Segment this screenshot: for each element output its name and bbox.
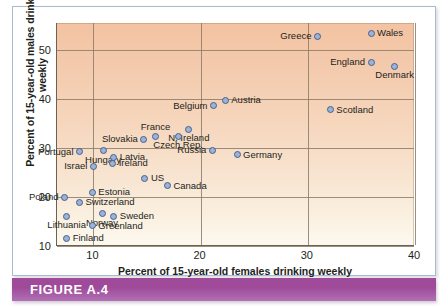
- gridline-vertical: [308, 23, 309, 245]
- plot-right-border: [413, 23, 414, 245]
- data-point: [89, 222, 96, 229]
- figure-caption-bar: FIGURE A.4: [12, 278, 436, 301]
- data-point: [210, 102, 217, 109]
- gridline-horizontal: [57, 148, 414, 149]
- data-point-label: Russia: [177, 145, 206, 155]
- data-point: [140, 136, 147, 143]
- data-point: [164, 182, 171, 189]
- data-point-label: Canada: [173, 181, 206, 191]
- data-point: [76, 199, 83, 206]
- data-point: [90, 163, 97, 170]
- data-point-label: US: [151, 173, 164, 183]
- figure-root: Percent of 15-year-old males drinking we…: [0, 0, 440, 307]
- data-point-label: Switzerland: [86, 197, 135, 207]
- data-point: [89, 189, 96, 196]
- data-point-label: Ireland: [119, 158, 148, 168]
- data-point-label: Denmark: [375, 70, 414, 80]
- y-tick-label: 10: [25, 240, 51, 252]
- gridline-vertical: [415, 23, 416, 245]
- x-tick-label: 30: [292, 249, 322, 261]
- data-point-label: England: [330, 57, 365, 67]
- data-point-label: Slovakia: [102, 134, 138, 144]
- data-point: [209, 147, 216, 154]
- figure-caption-label: FIGURE A.4: [30, 282, 108, 297]
- y-tick-label: 50: [25, 44, 51, 56]
- data-point-label: Greenland: [98, 221, 142, 231]
- gridline-horizontal: [57, 50, 414, 51]
- data-point-label: Israel: [64, 161, 87, 171]
- data-point-label: Lithuania: [47, 220, 86, 230]
- data-point: [222, 97, 229, 104]
- data-point: [152, 133, 159, 140]
- data-point-label: Poland: [29, 192, 59, 202]
- y-tick-label: 40: [25, 93, 51, 105]
- data-point-label: Portugal: [38, 147, 73, 157]
- gridline-vertical: [93, 23, 94, 245]
- data-point-label: Greece: [280, 31, 311, 41]
- data-point-label: Scotland: [336, 105, 373, 115]
- plot-top-border: [57, 23, 414, 24]
- data-point-label: Belgium: [173, 101, 207, 111]
- x-tick-label: 40: [399, 249, 429, 261]
- x-tick-label: 10: [77, 249, 107, 261]
- data-point: [110, 213, 117, 220]
- data-point: [109, 160, 116, 167]
- data-point-label: Austria: [231, 95, 261, 105]
- data-point: [234, 151, 241, 158]
- data-point-label: Germany: [243, 150, 282, 160]
- data-point-label: France: [141, 122, 171, 132]
- data-point: [61, 194, 68, 201]
- data-point: [141, 175, 148, 182]
- x-tick-label: 20: [185, 249, 215, 261]
- data-point: [63, 235, 70, 242]
- figure-panel: Percent of 15-year-old males drinking we…: [12, 6, 436, 276]
- data-point: [76, 148, 83, 155]
- data-point-label: Wales: [377, 28, 403, 38]
- data-point: [314, 33, 321, 40]
- x-axis-title: Percent of 15-year-old females drinking …: [56, 265, 414, 277]
- data-point-label: Finland: [73, 233, 104, 243]
- data-point: [327, 106, 334, 113]
- gridline-horizontal: [57, 246, 414, 247]
- data-point: [368, 30, 375, 37]
- data-point: [368, 59, 375, 66]
- scatter-plot-area: WalesGreeceEnglandDenmarkAustriaBelgiumS…: [56, 23, 414, 246]
